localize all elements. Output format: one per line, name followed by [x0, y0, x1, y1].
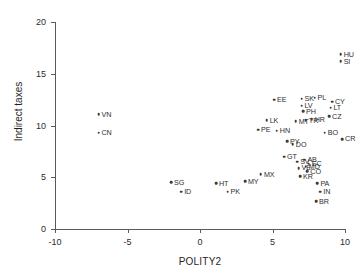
x-axis-tick — [345, 229, 346, 233]
data-point — [328, 115, 331, 118]
plot-area: 05101520-10-50510 VNCNSGIDHTPKMYMXEELKPE… — [55, 22, 345, 229]
data-point-label: IN — [323, 188, 330, 195]
data-point — [305, 119, 308, 122]
data-point — [316, 182, 319, 185]
data-point-label: CR — [345, 135, 355, 142]
x-axis-tick-label: -5 — [123, 238, 131, 247]
data-point — [299, 175, 302, 178]
data-point-label: KR — [303, 173, 313, 180]
data-point — [286, 140, 289, 143]
data-point — [310, 118, 313, 121]
y-axis-title: Indirect taxes — [13, 47, 24, 177]
data-point-label: PH — [306, 108, 316, 115]
data-point-label: EE — [277, 96, 286, 103]
y-axis-tick-label: 15 — [21, 69, 46, 78]
data-point — [341, 138, 344, 141]
data-point-label: PA — [320, 180, 329, 187]
x-axis-tick-label: -10 — [48, 238, 61, 247]
data-point — [257, 128, 260, 131]
y-axis-tick-label: 5 — [21, 173, 46, 182]
data-point — [300, 105, 303, 108]
data-point-label: GT — [287, 153, 297, 160]
data-point — [170, 181, 173, 184]
data-point-label: MY — [248, 178, 259, 185]
data-point — [273, 98, 276, 101]
y-axis-tick — [51, 74, 55, 75]
data-point — [244, 180, 247, 183]
x-axis-tick — [128, 229, 129, 233]
data-point — [297, 167, 300, 170]
data-point — [305, 166, 308, 169]
data-point — [319, 190, 322, 193]
data-point-label: BR — [319, 198, 329, 205]
data-point-label: SG — [174, 179, 184, 186]
data-point — [331, 100, 334, 103]
data-point — [283, 155, 286, 158]
data-point — [300, 97, 303, 100]
data-point — [265, 119, 268, 122]
y-axis-tick — [51, 126, 55, 127]
y-axis-tick — [51, 22, 55, 23]
data-point — [315, 200, 318, 203]
data-point-label: MX — [264, 171, 275, 178]
y-axis-tick-label: 0 — [21, 225, 46, 234]
data-point — [292, 143, 295, 146]
data-point — [302, 110, 305, 113]
x-axis-tick — [55, 229, 56, 233]
y-axis-tick — [51, 177, 55, 178]
data-point-label: PL — [318, 94, 327, 101]
data-point — [215, 182, 218, 185]
data-point — [329, 107, 332, 110]
y-axis-line — [55, 22, 56, 229]
data-point — [294, 120, 297, 123]
data-point-label: HN — [280, 127, 290, 134]
data-point-label: ID — [184, 188, 191, 195]
data-point — [97, 113, 100, 116]
data-point-label: CZ — [332, 113, 341, 120]
data-point — [276, 129, 279, 132]
data-point-label: DO — [296, 141, 307, 148]
data-point — [313, 96, 316, 99]
data-point-label: BO — [328, 129, 338, 136]
data-point — [226, 190, 229, 193]
data-point-label: SI — [344, 58, 351, 65]
x-axis-tick — [200, 229, 201, 233]
data-point-label: HT — [219, 180, 228, 187]
data-point-label: PE — [261, 126, 270, 133]
data-point-label: PK — [231, 188, 240, 195]
data-point-label: VN — [102, 111, 112, 118]
x-axis-title: POLITY2 — [55, 256, 345, 267]
data-point-label: LK — [270, 117, 279, 124]
scatter-plot-figure: 05101520-10-50510 VNCNSGIDHTPKMYMXEELKPE… — [0, 0, 360, 279]
x-axis-tick-label: 10 — [340, 238, 350, 247]
data-point — [339, 60, 342, 63]
data-point — [97, 131, 100, 134]
data-point-label: LT — [334, 104, 342, 111]
x-axis-tick-label: 0 — [197, 238, 202, 247]
data-point — [180, 190, 183, 193]
x-axis-tick — [273, 229, 274, 233]
y-axis-tick-label: 10 — [21, 121, 46, 130]
x-axis-tick-label: 5 — [270, 238, 275, 247]
data-point-label: CN — [102, 129, 112, 136]
data-point — [339, 53, 342, 56]
y-axis-tick-label: 20 — [21, 18, 46, 27]
data-point — [323, 131, 326, 134]
data-point — [260, 173, 263, 176]
data-point-label: HR — [315, 116, 325, 123]
data-point — [296, 160, 299, 163]
data-point — [303, 158, 306, 161]
